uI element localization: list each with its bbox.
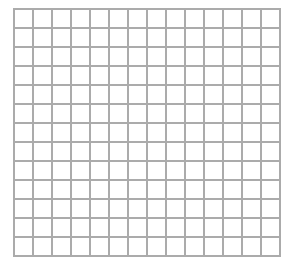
grid-cell [34,219,53,238]
grid-cell [129,67,148,86]
grid-cell [15,10,34,29]
grid-cell [205,181,224,200]
grid-cell [15,29,34,48]
grid-cell [224,143,243,162]
grid-cell [205,162,224,181]
grid-cell [91,162,110,181]
grid-cell [110,29,129,48]
grid-cell [15,143,34,162]
grid-cell [167,105,186,124]
grid-cell [72,105,91,124]
grid-cell [91,10,110,29]
grid-cell [110,162,129,181]
grid-cell [186,162,205,181]
grid-cell [15,67,34,86]
grid-cell [91,219,110,238]
grid-cell [72,48,91,67]
grid-cell [262,238,281,257]
grid-cell [224,105,243,124]
grid-cell [167,86,186,105]
grid-cell [224,181,243,200]
grid-cell [34,29,53,48]
grid-cell [205,238,224,257]
grid-cell [243,67,262,86]
grid-cell [72,181,91,200]
grid-cell [167,200,186,219]
grid-cell [15,124,34,143]
grid-cell [205,105,224,124]
grid-cell [129,48,148,67]
empty-grid [13,8,281,257]
grid-cell [34,10,53,29]
grid-cell [224,200,243,219]
grid-cell [186,124,205,143]
grid-cell [167,219,186,238]
grid-cell [91,238,110,257]
grid-cell [167,10,186,29]
grid-cell [205,48,224,67]
grid-cell [129,10,148,29]
grid-cell [53,200,72,219]
grid-cell [15,200,34,219]
grid-cell [129,124,148,143]
grid-cell [224,10,243,29]
grid-cell [91,29,110,48]
grid-cell [110,48,129,67]
grid-cell [205,124,224,143]
grid-cell [72,143,91,162]
grid-cell [243,48,262,67]
grid-cell [34,143,53,162]
grid-cell [186,10,205,29]
grid-cell [148,48,167,67]
grid-cell [53,124,72,143]
grid-cell [34,105,53,124]
grid-cell [110,181,129,200]
grid-cell [34,238,53,257]
grid-cell [53,105,72,124]
grid-cell [243,105,262,124]
grid-cell [53,238,72,257]
grid-cell [205,219,224,238]
grid-cell [91,143,110,162]
grid-cell [167,181,186,200]
grid-cell [15,105,34,124]
grid-cell [110,219,129,238]
grid-cell [262,86,281,105]
grid-cell [186,48,205,67]
grid-cell [224,86,243,105]
grid-cell [91,48,110,67]
grid-cell [167,143,186,162]
grid-cell [110,238,129,257]
grid-cell [167,67,186,86]
grid-cell [186,67,205,86]
grid-cell [243,10,262,29]
grid-cell [148,162,167,181]
grid-cell [34,48,53,67]
grid-cell [72,200,91,219]
grid-cell [91,67,110,86]
grid-cell [148,238,167,257]
grid-cell [262,181,281,200]
grid-cell [167,29,186,48]
grid-cell [129,105,148,124]
grid-cell [186,238,205,257]
grid-cell [243,181,262,200]
grid-cell [205,10,224,29]
grid-cell [186,86,205,105]
grid-cell [72,86,91,105]
grid-cell [110,105,129,124]
grid-cell [243,124,262,143]
grid-cell [53,219,72,238]
grid-cell [224,162,243,181]
grid-cell [243,29,262,48]
grid-cell [53,48,72,67]
grid-cell [148,29,167,48]
grid-cell [186,143,205,162]
grid-cell [262,162,281,181]
grid-cell [34,200,53,219]
grid-cell [15,181,34,200]
grid-cell [72,67,91,86]
grid-cell [224,238,243,257]
grid-cell [110,67,129,86]
grid-cell [91,86,110,105]
